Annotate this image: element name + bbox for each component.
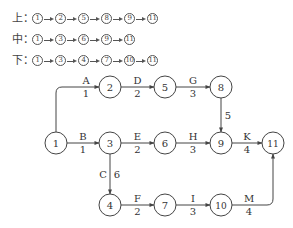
network-diagram: A1B1C6D2E2F2G3H3I35K4M4 1234567891011 — [0, 0, 293, 228]
activity-name: C — [99, 169, 107, 180]
activity-duration: 4 — [246, 206, 252, 217]
activity-name: A — [81, 75, 90, 86]
activity-duration: 4 — [244, 144, 250, 155]
activity-duration: 1 — [83, 88, 89, 99]
activity-duration: 6 — [114, 169, 120, 180]
event-node: 2 — [99, 76, 121, 98]
activity-duration: 2 — [134, 88, 140, 99]
event-node: 7 — [154, 194, 176, 216]
activity-name: G — [189, 75, 197, 86]
activity-arrow — [56, 87, 99, 132]
event-node: 4 — [99, 194, 121, 216]
activity-duration: 2 — [134, 206, 140, 217]
node-number: 2 — [107, 82, 113, 93]
activity-name: K — [243, 131, 251, 142]
activity-name: E — [134, 131, 141, 142]
activity-name: B — [79, 131, 86, 142]
activity-duration: 5 — [225, 110, 231, 121]
node-number: 4 — [107, 200, 113, 211]
activity-name: F — [134, 193, 141, 204]
event-node: 8 — [210, 76, 232, 98]
node-number: 7 — [162, 200, 168, 211]
node-number: 11 — [267, 139, 278, 149]
node-number: 10 — [215, 201, 227, 211]
event-node: 1 — [45, 132, 67, 154]
event-node: 5 — [154, 76, 176, 98]
activity-name: H — [189, 131, 198, 142]
event-node: 11 — [262, 132, 284, 154]
event-node: 3 — [99, 132, 121, 154]
node-number: 3 — [107, 138, 113, 149]
node-number: 5 — [162, 82, 168, 93]
node-number: 6 — [162, 138, 168, 149]
node-number: 1 — [53, 138, 59, 149]
activity-name: M — [244, 193, 254, 204]
activity-duration: 1 — [80, 144, 86, 155]
activity-duration: 3 — [190, 144, 196, 155]
event-node: 9 — [210, 132, 232, 154]
activity-name: D — [133, 75, 141, 86]
activity-name: I — [191, 193, 195, 204]
node-number: 8 — [218, 82, 224, 93]
activity-duration: 2 — [134, 144, 140, 155]
activity-duration: 3 — [190, 88, 196, 99]
event-node: 10 — [210, 194, 232, 216]
node-number: 9 — [218, 138, 224, 149]
event-node: 6 — [154, 132, 176, 154]
activity-duration: 3 — [190, 206, 196, 217]
